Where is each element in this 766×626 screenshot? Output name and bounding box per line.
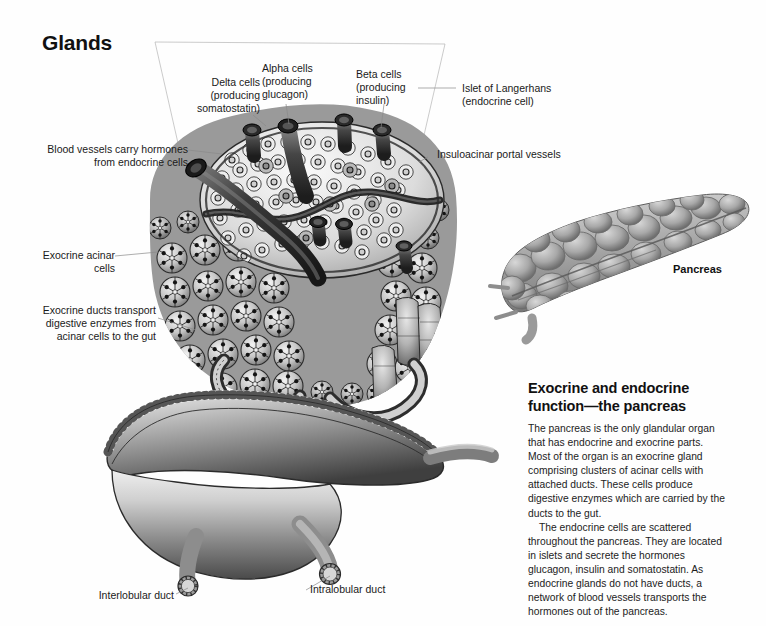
article-paragraph-1: The pancreas is the only glandular organ… (528, 422, 728, 521)
callout-islet-of-langerhans: Islet of Langerhans (endocrine cell) (462, 82, 612, 108)
callout-blood-vessels: Blood vessels carry hormones from endocr… (22, 143, 188, 169)
article-heading: Exocrine and endocrine function—the panc… (528, 380, 728, 415)
callout-delta-cells: Delta cells (producing somatostatin) (150, 76, 260, 116)
callout-exocrine-ducts: Exocrine ducts transport digestive enzym… (24, 304, 156, 344)
article-block: Exocrine and endocrine function—the panc… (528, 380, 728, 619)
article-paragraph-2: The endocrine cells are scattered throug… (528, 521, 728, 620)
illustration-page: Glands (0, 0, 766, 626)
callout-insuloacinar-portal-vessels: Insuloacinar portal vessels (437, 148, 607, 161)
callout-beta-cells: Beta cells (producing insulin) (356, 68, 446, 108)
duct-system (107, 360, 492, 596)
callout-intralobular-duct: Intralobular duct (310, 583, 410, 596)
callout-alpha-cells: Alpha cells (producing glucagon) (262, 62, 362, 102)
callout-exocrine-acinar-cells: Exocrine acinar cells (20, 249, 115, 275)
organ-label-pancreas: Pancreas (673, 263, 722, 275)
callout-interlobular-duct: Interlobular duct (80, 589, 174, 602)
